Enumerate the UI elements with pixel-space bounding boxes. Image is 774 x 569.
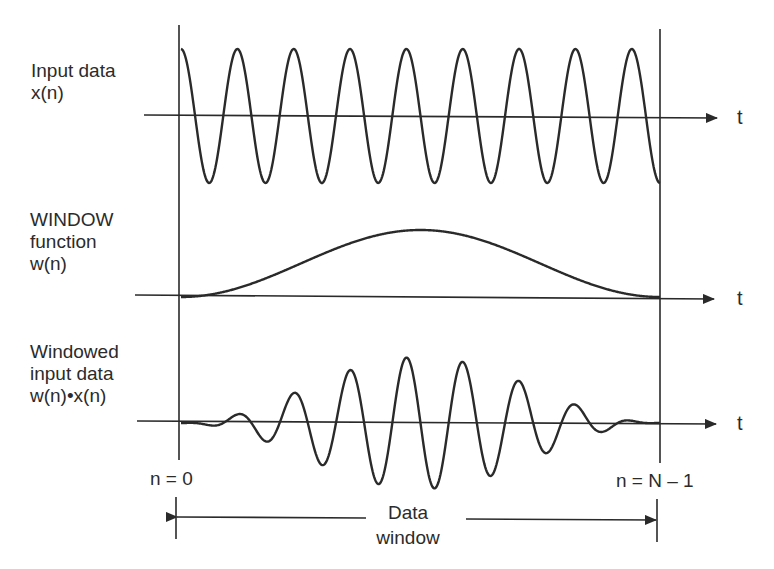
window-function-curve bbox=[181, 230, 660, 297]
windowed-signal-curve bbox=[181, 358, 660, 489]
window-label-line-2: function bbox=[30, 231, 113, 253]
windowed-label-line-1: Windowed bbox=[30, 341, 119, 363]
data-window-label-line-1: Data bbox=[368, 500, 448, 525]
window-label: WINDOW function w(n) bbox=[30, 209, 113, 275]
span-arrow-right bbox=[466, 519, 656, 520]
windowed-label-line-3: w(n)•x(n) bbox=[30, 385, 119, 407]
start-marker-label: n = 0 bbox=[150, 468, 193, 490]
windowed-label-line-2: input data bbox=[30, 363, 119, 385]
input-label-line-2: x(n) bbox=[31, 82, 116, 104]
data-window-label-line-2: window bbox=[368, 525, 448, 550]
input-axis-label: t bbox=[737, 106, 743, 129]
windowed-label: Windowed input data w(n)•x(n) bbox=[30, 341, 119, 407]
data-window-label: Data window bbox=[368, 500, 448, 550]
input-label: Input data x(n) bbox=[31, 60, 116, 104]
window-axis-label: t bbox=[737, 287, 743, 310]
span-arrow-left bbox=[177, 517, 366, 518]
window-time-axis bbox=[135, 295, 714, 299]
window-label-line-3: w(n) bbox=[30, 253, 113, 275]
window-label-line-1: WINDOW bbox=[30, 209, 113, 231]
windowed-axis-label: t bbox=[737, 412, 743, 435]
input-time-axis bbox=[144, 115, 717, 118]
end-marker-label: n = N – 1 bbox=[616, 470, 694, 492]
input-label-line-1: Input data bbox=[31, 60, 116, 82]
